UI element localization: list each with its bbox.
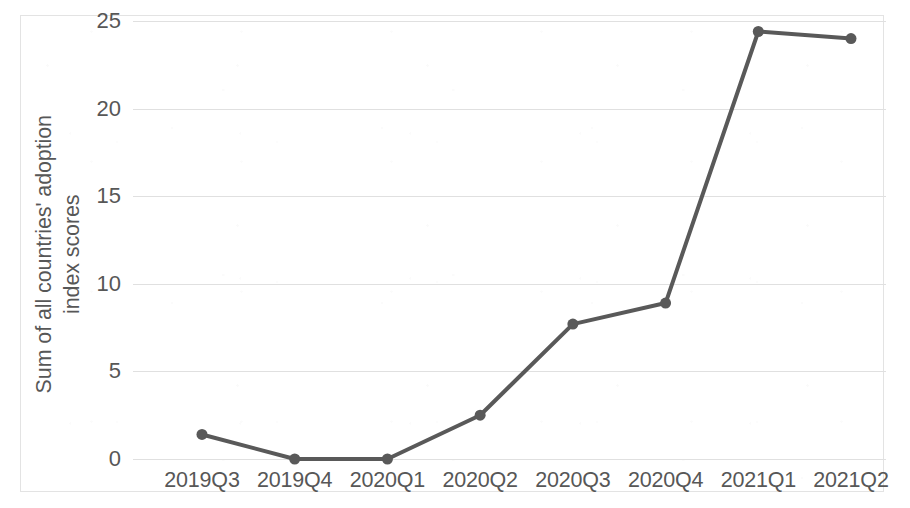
plot-area: 0510152025 [133, 21, 886, 459]
y-axis-title-line-2: index scores [59, 195, 85, 315]
data-point-2020Q3 [567, 319, 578, 330]
y-tick-label-15: 15 [97, 183, 121, 209]
gridline-0 [133, 459, 886, 460]
x-tick-label-2019Q4: 2019Q4 [257, 468, 332, 493]
x-tick-label-2020Q1: 2020Q1 [350, 468, 425, 493]
data-point-2021Q2 [846, 33, 857, 44]
x-axis-tick-labels: 2019Q32019Q42020Q12020Q22020Q32020Q42021… [133, 468, 886, 502]
y-tick-label-5: 5 [109, 358, 121, 384]
data-point-2020Q1 [382, 454, 393, 465]
line-series [133, 21, 886, 459]
x-tick-label-2020Q4: 2020Q4 [628, 468, 703, 493]
y-axis-title: index scores Sum of all countries' adopt… [21, 16, 95, 493]
chart-figure: index scores Sum of all countries' adopt… [20, 15, 884, 492]
x-tick-label-2021Q2: 2021Q2 [813, 468, 888, 493]
data-point-2019Q3 [197, 429, 208, 440]
y-tick-label-10: 10 [97, 271, 121, 297]
x-tick-label-2020Q2: 2020Q2 [442, 468, 517, 493]
data-point-2019Q4 [289, 454, 300, 465]
y-axis-title-line-1: Sum of all countries' adoption [31, 115, 57, 393]
y-tick-label-20: 20 [97, 96, 121, 122]
x-tick-label-2020Q3: 2020Q3 [535, 468, 610, 493]
data-point-2020Q2 [475, 410, 486, 421]
data-point-2021Q1 [753, 26, 764, 37]
y-tick-label-25: 25 [97, 8, 121, 34]
y-tick-label-0: 0 [109, 446, 121, 472]
series-line [202, 32, 851, 459]
x-tick-label-2019Q3: 2019Q3 [164, 468, 239, 493]
data-point-2020Q4 [660, 298, 671, 309]
x-tick-label-2021Q1: 2021Q1 [721, 468, 796, 493]
